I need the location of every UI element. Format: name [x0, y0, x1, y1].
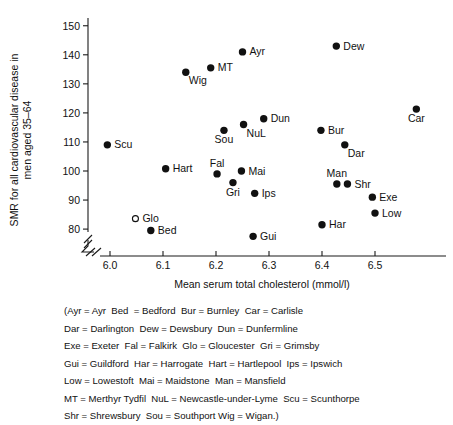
data-point: Low	[371, 207, 401, 219]
legend-line: Gui = Guildford Har = Harrogate Hart = H…	[0, 355, 453, 373]
data-point-label: Ips	[262, 187, 276, 199]
data-point-marker	[213, 170, 220, 177]
data-point: NuL	[240, 121, 266, 139]
data-point-label: Gui	[260, 230, 276, 242]
y-tick-label: 110	[63, 136, 80, 148]
data-point-label: Bur	[328, 124, 345, 136]
data-point-marker	[333, 180, 340, 187]
data-point: Dar	[341, 141, 365, 159]
x-tick-label: 6.1	[156, 259, 171, 271]
y-axis-title-line: SMR for all cardiovascular disease in	[8, 53, 20, 226]
data-point: Ips	[251, 187, 276, 199]
data-point-label: Gri	[226, 186, 240, 198]
legend-line: MT = Merthyr Tydfil NuL = Newcastle-unde…	[0, 390, 453, 408]
data-point-marker	[251, 190, 258, 197]
data-point: Bur	[317, 124, 345, 136]
data-point: Glo	[132, 212, 159, 224]
data-point: Fal	[210, 157, 225, 178]
data-point-label: Fal	[210, 157, 225, 169]
data-point-label: Har	[329, 218, 346, 230]
data-point: Bed	[147, 224, 177, 236]
data-point: Sou	[215, 127, 234, 146]
y-tick-label: 140	[62, 49, 80, 61]
plot-area: 80901001101201301401506.06.16.26.36.46.5…	[0, 0, 453, 300]
legend-line: Exe = Exeter Fal = Falkirk Glo = Glouces…	[0, 337, 453, 355]
data-point-label: NuL	[247, 127, 266, 139]
legend-line: (Ayr = Ayr Bed = Bedford Bur = Burnley C…	[0, 302, 453, 320]
data-point-label: Glo	[142, 212, 159, 224]
data-point-label: Mai	[248, 165, 265, 177]
data-point-label: Sou	[215, 133, 234, 145]
data-point-marker	[318, 221, 325, 228]
data-point-label: Exe	[379, 191, 397, 203]
legend-line: Shr = Shrewsbury Sou = Southport Wig = W…	[0, 407, 453, 425]
data-point-marker	[333, 42, 340, 49]
data-point: Har	[318, 218, 346, 230]
data-point-label: Man	[327, 167, 348, 179]
data-point-label: Dew	[343, 40, 364, 52]
data-point-marker	[371, 209, 378, 216]
data-point: Wig	[182, 69, 207, 87]
legend-line: Low = Lowestoft Mai = Maidstone Man = Ma…	[0, 372, 453, 390]
data-point: Mai	[238, 165, 266, 177]
data-point-marker	[317, 127, 324, 134]
abbreviation-legend: (Ayr = Ayr Bed = Bedford Bur = Burnley C…	[0, 302, 453, 425]
x-tick-label: 6.0	[103, 259, 118, 271]
data-point-label: MT	[218, 61, 234, 73]
y-tick-label: 100	[62, 165, 80, 177]
data-point-label: Dar	[348, 147, 365, 159]
data-point-marker	[369, 193, 376, 200]
data-point-marker	[104, 141, 111, 148]
data-point: Ayr	[239, 45, 266, 57]
data-point-marker	[260, 115, 267, 122]
y-tick-label: 150	[62, 20, 80, 32]
data-point-marker-open	[132, 216, 138, 222]
data-point-marker	[238, 167, 245, 174]
x-tick-label: 6.5	[368, 259, 383, 271]
data-point-label: Dun	[271, 112, 290, 124]
y-axis-title-line: men aged 35–64	[21, 100, 33, 179]
data-point-label: Wig	[189, 74, 207, 86]
data-point: Car	[408, 105, 425, 124]
data-point-label: Scu	[114, 138, 132, 150]
x-axis-title: Mean serum total cholesterol (mmol/l)	[174, 278, 350, 290]
data-point-marker	[147, 227, 154, 234]
data-point-label: Low	[382, 207, 402, 219]
x-tick-label: 6.3	[262, 259, 277, 271]
data-point-label: Car	[408, 112, 425, 124]
data-point-marker	[207, 64, 214, 71]
x-tick-label: 6.4	[315, 259, 330, 271]
data-point: Scu	[104, 138, 133, 150]
data-point-marker	[239, 48, 246, 55]
data-point-label: Hart	[173, 162, 193, 174]
data-point-label: Shr	[354, 178, 371, 190]
data-point: Gui	[249, 230, 276, 242]
chart-canvas: 80901001101201301401506.06.16.26.36.46.5…	[0, 0, 453, 300]
data-point-label: Bed	[158, 224, 177, 236]
data-point: Shr	[344, 178, 372, 190]
data-point-marker	[249, 233, 256, 240]
data-point: MT	[207, 61, 233, 73]
data-point: Dun	[260, 112, 290, 124]
data-point-marker	[344, 180, 351, 187]
data-point-label: Ayr	[250, 45, 266, 57]
x-tick-label: 6.2	[209, 259, 224, 271]
data-point: Hart	[162, 162, 193, 174]
legend-line: Dar = Darlington Dew = Dewsbury Dun = Du…	[0, 320, 453, 338]
y-tick-label: 80	[68, 223, 80, 235]
y-tick-label: 90	[68, 194, 80, 206]
data-point: Dew	[333, 40, 365, 52]
data-point: Gri	[226, 179, 240, 198]
data-point-marker	[162, 165, 169, 172]
y-tick-label: 120	[62, 107, 80, 119]
y-tick-label: 130	[62, 78, 80, 90]
data-point: Exe	[369, 191, 398, 203]
